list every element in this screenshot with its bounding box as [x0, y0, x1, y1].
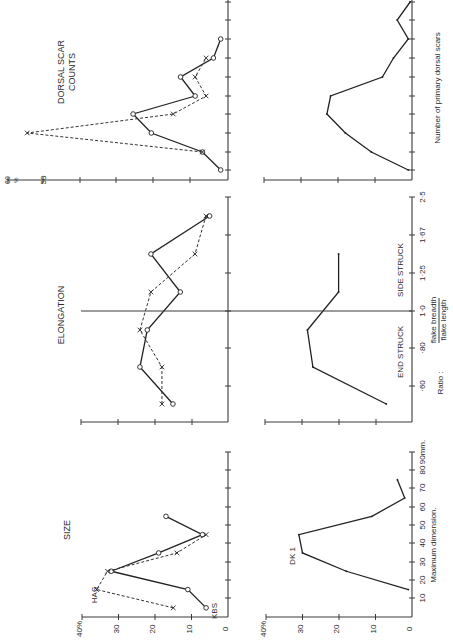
- ratio-numerator: flake breadth: [429, 297, 438, 343]
- size-title: SIZE: [62, 520, 72, 540]
- size-tick-label: 20: [418, 575, 427, 584]
- percent-tick-label: 20: [148, 624, 157, 633]
- circle-marker: [149, 131, 154, 136]
- circle-marker: [145, 328, 150, 333]
- dot-marker: [397, 479, 399, 481]
- elongation-tick-label: ·80: [418, 342, 427, 354]
- dot-marker: [345, 132, 347, 134]
- elongation-tick-label: 1·0: [418, 305, 427, 317]
- dot-marker: [409, 1, 411, 3]
- percent-tick-label: 10: [369, 624, 378, 633]
- size-xlabel: Maximum dimension.: [429, 507, 438, 583]
- circle-marker: [178, 290, 183, 295]
- percent-tick-label: 0: [221, 626, 230, 631]
- elongation-tick-label: 1·67: [418, 226, 427, 243]
- has-line: [27, 58, 206, 152]
- dot-marker: [370, 151, 372, 153]
- circle-marker: [131, 112, 136, 117]
- circle-marker: [171, 402, 176, 407]
- circle-marker: [204, 606, 209, 611]
- size-tick-label: 10: [418, 593, 427, 602]
- kbs-line: [133, 39, 221, 170]
- dot-marker: [393, 57, 395, 59]
- dk1-line: [327, 2, 410, 170]
- dot-marker: [307, 329, 309, 331]
- archaeology-figure: 010203040%010203040%102030405060708090mm…: [0, 0, 453, 641]
- circle-marker: [164, 514, 169, 519]
- circle-marker: [211, 56, 216, 61]
- size-tick-label: 40: [418, 538, 427, 547]
- percent-tick-label: 30: [296, 624, 305, 633]
- x-marker: [193, 252, 198, 257]
- dot-marker: [385, 403, 387, 405]
- elongation-title: ELONGATION: [56, 286, 66, 344]
- x-marker: [149, 290, 154, 295]
- dk1-line: [299, 480, 409, 590]
- dorsal-pct-50: 50: [39, 175, 48, 184]
- has-line: [140, 216, 206, 404]
- percent-tick-label: 40%: [259, 621, 268, 637]
- x-marker: [193, 75, 198, 80]
- dot-marker: [302, 552, 304, 554]
- dot-marker: [396, 19, 398, 21]
- dot-marker: [312, 366, 314, 368]
- dot-marker: [407, 169, 409, 171]
- dot-marker: [338, 291, 340, 293]
- kbs-line: [140, 216, 210, 404]
- size-tick-label: 60: [418, 502, 427, 511]
- dot-marker: [371, 515, 373, 517]
- circle-marker: [218, 37, 223, 42]
- x-marker: [204, 56, 209, 61]
- has-label: HAS: [90, 587, 99, 603]
- elongation-tick-label: 2·5: [418, 191, 427, 203]
- circle-marker: [149, 252, 154, 257]
- circle-marker: [218, 168, 223, 173]
- size-tick-label: 30: [418, 557, 427, 566]
- dorsal-pct-sign: %: [13, 177, 19, 183]
- circle-marker: [193, 94, 198, 99]
- kbs-line: [111, 516, 206, 608]
- circle-marker: [186, 587, 191, 592]
- size-tick-label: 80: [418, 465, 427, 474]
- percent-tick-label: 0: [405, 626, 414, 631]
- dot-marker: [330, 95, 332, 97]
- elongation-tick-label: ·60: [418, 380, 427, 392]
- circle-marker: [178, 75, 183, 80]
- dot-marker: [404, 497, 406, 499]
- percent-tick-label: 40%: [75, 621, 84, 637]
- side-struck-label: SIDE STRUCK: [396, 242, 405, 296]
- end-struck-label: END STRUCK: [396, 325, 405, 378]
- size-tick-label: 70: [418, 483, 427, 492]
- dk1-line: [307, 254, 386, 404]
- dorsal-title-1: DORSAL SCAR: [56, 39, 66, 104]
- circle-marker: [156, 551, 161, 556]
- dot-marker: [382, 76, 384, 78]
- dot-marker: [345, 570, 347, 572]
- dot-marker: [407, 38, 409, 40]
- percent-tick-label: 20: [332, 624, 341, 633]
- dorsal-pct-60: 60: [4, 176, 11, 184]
- elongation-tick-label: 1·25: [418, 264, 427, 281]
- size-tick-label: 50: [418, 520, 427, 529]
- ratio-denominator: flake length: [439, 300, 448, 341]
- dorsal-xlabel: Number of primary dorsal scars: [433, 32, 442, 144]
- kbs-label: KBS: [210, 603, 219, 619]
- plots-layer: 010203040%010203040%102030405060708090mm…: [8, 0, 427, 637]
- ratio-label: Ratio :: [436, 371, 445, 394]
- percent-tick-label: 30: [112, 624, 121, 633]
- dot-marker: [298, 534, 300, 536]
- dorsal-title-2: COUNTS: [67, 53, 77, 91]
- circle-marker: [138, 365, 143, 370]
- x-marker: [204, 94, 209, 99]
- percent-tick-label: 10: [185, 624, 194, 633]
- size-tick-label: 90mm.: [418, 440, 427, 464]
- dk1-label: DK 1: [288, 547, 297, 565]
- dot-marker: [407, 589, 409, 591]
- dot-marker: [338, 253, 340, 255]
- dot-marker: [326, 113, 328, 115]
